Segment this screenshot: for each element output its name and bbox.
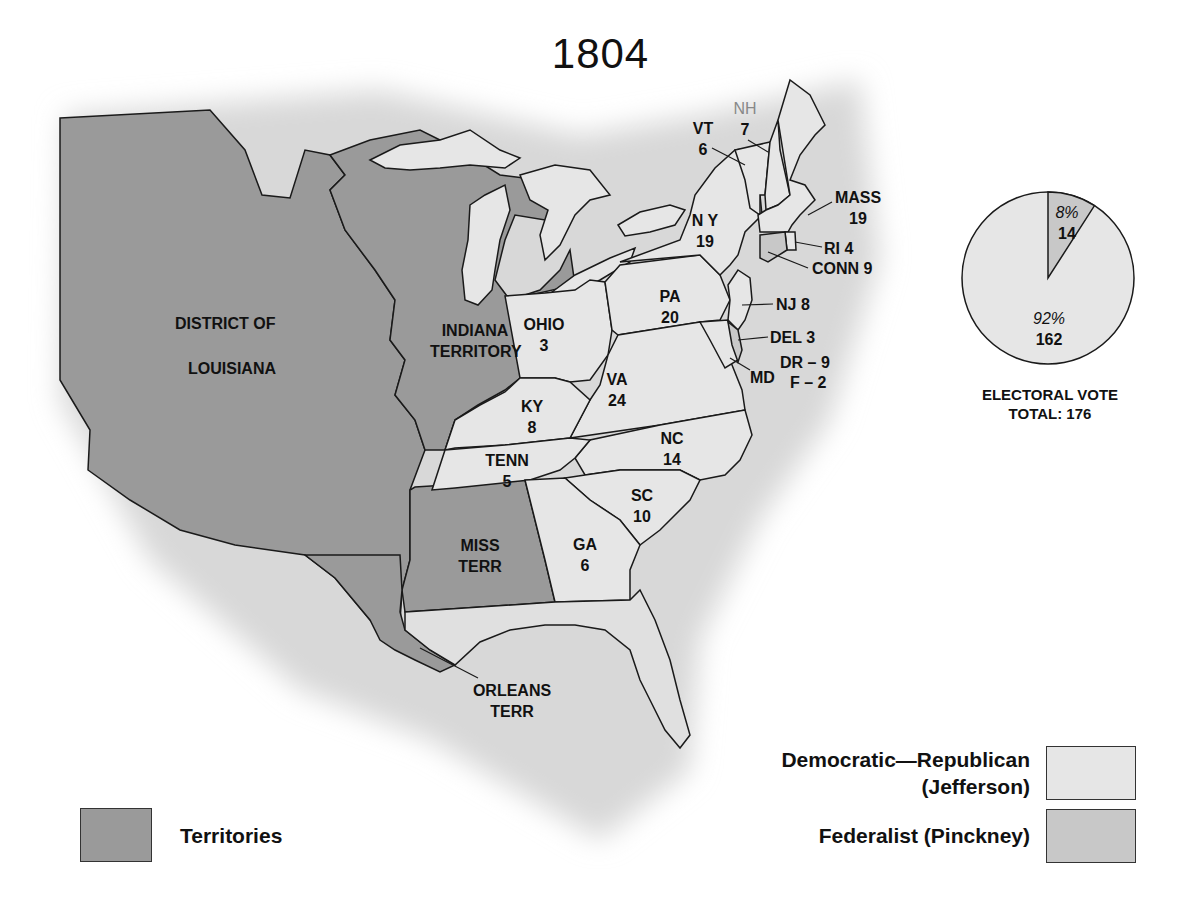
label-nc-votes: 14 <box>652 449 692 470</box>
label-nc-name: NC <box>652 428 692 449</box>
label-miss-line2: TERR <box>450 556 510 577</box>
label-sc: SC 10 <box>622 485 662 527</box>
label-ohio-name: OHIO <box>515 314 573 335</box>
label-ohio: OHIO 3 <box>515 314 573 356</box>
label-nj: NJ 8 <box>776 294 810 315</box>
label-pa-name: PA <box>650 286 690 307</box>
label-ga-name: GA <box>565 534 605 555</box>
label-pa: PA 20 <box>650 286 690 328</box>
label-ky-votes: 8 <box>517 417 547 438</box>
label-ky: KY 8 <box>517 396 547 438</box>
label-sc-votes: 10 <box>622 506 662 527</box>
label-va-name: VA <box>597 369 637 390</box>
legend-swatch-territories <box>80 808 152 862</box>
label-tenn-name: TENN <box>482 450 532 471</box>
label-md-f: F – 2 <box>790 372 826 393</box>
pie-federalist-pct: 8% <box>1055 204 1078 221</box>
legend-dr-label: Democratic—Republican (Jefferson) <box>700 746 1030 800</box>
legend-federalist-label: Federalist (Pinckney) <box>700 822 1030 849</box>
label-mass-votes: 19 <box>828 208 888 229</box>
label-vt-name: VT <box>688 118 718 139</box>
label-nh-name: NH <box>730 98 760 119</box>
label-ohio-votes: 3 <box>515 335 573 356</box>
legend-dr-line2: (Jefferson) <box>700 773 1030 800</box>
label-ri: RI 4 <box>824 238 853 259</box>
label-va-votes: 24 <box>597 390 637 411</box>
label-tenn: TENN 5 <box>482 450 532 492</box>
label-conn: CONN 9 <box>812 258 872 279</box>
electoral-vote-caption: ELECTORAL VOTE TOTAL: 176 <box>935 385 1165 423</box>
label-del: DEL 3 <box>770 327 815 348</box>
pie-federalist-votes: 14 <box>1050 223 1084 244</box>
label-orleans-terr: ORLEANS TERR <box>472 680 552 722</box>
label-ny-name: N Y <box>685 210 725 231</box>
ev-caption-line2: TOTAL: 176 <box>935 404 1165 423</box>
label-indiana-line1: INDIANA <box>430 320 520 341</box>
label-pa-votes: 20 <box>650 307 690 328</box>
label-ga-votes: 6 <box>565 555 605 576</box>
electoral-vote-pie-chart: 8% 14 92% 162 <box>960 190 1136 366</box>
legend-swatch-dr <box>1046 746 1136 800</box>
legend-dr-line1: Democratic—Republican <box>700 746 1030 773</box>
label-sc-name: SC <box>622 485 662 506</box>
label-nc: NC 14 <box>652 428 692 470</box>
label-orleans-line2: TERR <box>472 701 552 722</box>
label-ny: N Y 19 <box>685 210 725 252</box>
label-district-of-louisiana-line2: LOUISIANA <box>188 358 276 379</box>
label-vt: VT 6 <box>688 118 718 160</box>
label-miss-line1: MISS <box>450 535 510 556</box>
label-indiana-territory: INDIANA TERRITORY <box>430 320 520 362</box>
label-indiana-line2: TERRITORY <box>430 341 520 362</box>
label-md-dr: DR – 9 <box>780 352 830 373</box>
label-mass-name: MASS <box>828 187 888 208</box>
pie-label-dr: 92% 162 <box>1028 308 1070 350</box>
label-tenn-votes: 5 <box>482 471 532 492</box>
label-va: VA 24 <box>597 369 637 411</box>
label-mass: MASS 19 <box>828 187 888 229</box>
label-ky-name: KY <box>517 396 547 417</box>
label-md-name: MD <box>750 367 775 388</box>
label-district-of-louisiana-line1: DISTRICT OF <box>175 313 275 334</box>
pie-dr-pct: 92% <box>1033 310 1065 327</box>
label-nh-votes: 7 <box>730 119 760 140</box>
label-nh: NH 7 <box>730 98 760 140</box>
label-miss-terr: MISS TERR <box>450 535 510 577</box>
legend-swatch-federalist <box>1046 809 1136 863</box>
label-ga: GA 6 <box>565 534 605 576</box>
label-orleans-line1: ORLEANS <box>472 680 552 701</box>
ev-caption-line1: ELECTORAL VOTE <box>935 385 1165 404</box>
legend-territories-label: Territories <box>180 822 282 849</box>
pie-dr-votes: 162 <box>1028 329 1070 350</box>
label-vt-votes: 6 <box>688 139 718 160</box>
label-ny-votes: 19 <box>685 231 725 252</box>
pie-label-federalist: 8% 14 <box>1050 202 1084 244</box>
